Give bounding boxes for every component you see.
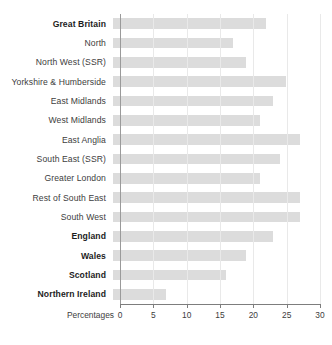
x-axis-title: Percentages (60, 310, 114, 320)
bar-row: Rest of South East (0, 188, 332, 207)
bar-track (113, 130, 332, 149)
bar-category-label: Rest of South East (0, 193, 113, 203)
bar-row: Great Britain (0, 14, 332, 33)
bar-fill (113, 134, 300, 145)
bar-row: North (0, 33, 332, 52)
bar-row: South West (0, 207, 332, 226)
bar-track (113, 72, 332, 91)
chart-rows: Great BritainNorthNorth West (SSR)Yorksh… (0, 14, 332, 304)
bar-row: England (0, 227, 332, 246)
bar-fill (113, 18, 266, 29)
bar-fill (113, 173, 260, 184)
bar-row: East Midlands (0, 91, 332, 110)
bar-track (113, 285, 332, 304)
bar-row: East Anglia (0, 130, 332, 149)
bar-category-label: England (0, 231, 113, 241)
bar-category-label: East Midlands (0, 96, 113, 106)
bar-track (113, 53, 332, 72)
bar-row: Greater London (0, 169, 332, 188)
bar-track (113, 169, 332, 188)
x-axis-tick (320, 304, 321, 308)
bar-category-label: Greater London (0, 173, 113, 183)
x-axis-tick-label: 25 (282, 310, 291, 320)
bar-fill (113, 289, 166, 300)
bar-row: North West (SSR) (0, 53, 332, 72)
bar-category-label: Northern Ireland (0, 289, 113, 299)
bar-category-label: Yorkshire & Humberside (0, 77, 113, 87)
x-axis-tick (120, 304, 121, 308)
x-axis-tick-label: 5 (151, 310, 156, 320)
bar-fill (113, 154, 280, 165)
x-axis-tick-label: 15 (215, 310, 224, 320)
x-axis-tick-label: 10 (182, 310, 191, 320)
bar-fill (113, 250, 246, 261)
bar-category-label: South East (SSR) (0, 154, 113, 164)
bar-category-label: East Anglia (0, 135, 113, 145)
bar-fill (113, 38, 233, 49)
bar-track (113, 111, 332, 130)
bar-fill (113, 231, 273, 242)
bar-fill (113, 115, 260, 126)
bar-track (113, 91, 332, 110)
bar-fill (113, 57, 246, 68)
x-axis-tick (220, 304, 221, 308)
bar-category-label: Great Britain (0, 19, 113, 29)
bar-fill (113, 192, 300, 203)
bar-track (113, 188, 332, 207)
bar-track (113, 207, 332, 226)
bar-track (113, 33, 332, 52)
bar-fill (113, 212, 300, 223)
x-axis-tick-label: 30 (315, 310, 324, 320)
bar-row: Scotland (0, 265, 332, 284)
bar-category-label: Scotland (0, 270, 113, 280)
bar-category-label: Wales (0, 251, 113, 261)
bar-fill (113, 96, 273, 107)
x-axis-tick (253, 304, 254, 308)
bar-category-label: South West (0, 212, 113, 222)
bar-track (113, 14, 332, 33)
x-axis-tick-label: 20 (249, 310, 258, 320)
bar-row: Northern Ireland (0, 285, 332, 304)
bar-track (113, 227, 332, 246)
x-axis-tick (153, 304, 154, 308)
bar-row: South East (SSR) (0, 149, 332, 168)
bar-track (113, 246, 332, 265)
bar-chart: Great BritainNorthNorth West (SSR)Yorksh… (0, 0, 332, 345)
bar-fill (113, 270, 226, 281)
x-axis-tick (287, 304, 288, 308)
bar-category-label: West Midlands (0, 115, 113, 125)
bar-fill (113, 76, 286, 87)
bar-category-label: North (0, 38, 113, 48)
x-axis-tick (187, 304, 188, 308)
bar-track (113, 149, 332, 168)
bar-row: Yorkshire & Humberside (0, 72, 332, 91)
bar-track (113, 265, 332, 284)
bar-row: Wales (0, 246, 332, 265)
bar-category-label: North West (SSR) (0, 57, 113, 67)
bar-row: West Midlands (0, 111, 332, 130)
x-axis-tick-label: 0 (118, 310, 123, 320)
